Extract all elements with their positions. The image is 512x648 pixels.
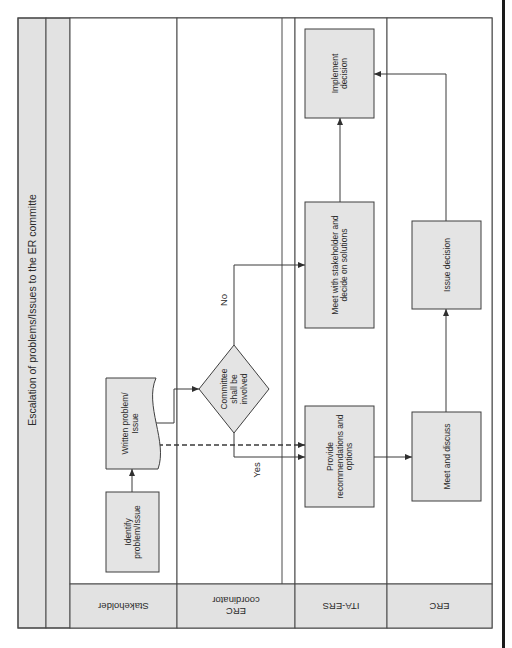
node-issue-decision: Issue decision bbox=[412, 221, 481, 309]
node-label: Implementdecision bbox=[330, 53, 350, 93]
edge-label-no: No bbox=[218, 294, 229, 306]
lane-body bbox=[177, 18, 295, 584]
node-identify: Identifyproblem/Issue bbox=[106, 492, 159, 572]
node-label: Issue decision bbox=[442, 238, 452, 292]
lane-erc-coordinator: ERCcoordinator bbox=[177, 18, 295, 628]
lane-erc: ERC bbox=[387, 18, 492, 628]
node-label: Committeeshall beinvolved bbox=[219, 368, 249, 409]
edge-label-yes: Yes bbox=[251, 462, 262, 478]
spacer-column bbox=[46, 18, 70, 628]
node-meet-discuss: Meet and discuss bbox=[412, 412, 481, 501]
node-provide: Providerecommendations andoptions bbox=[305, 406, 374, 507]
diagram-canvas: StakeholderERCcoordinatorITA-ERSERC NoYe… bbox=[0, 0, 512, 648]
node-written: Written problem/Issue bbox=[106, 378, 161, 469]
swimlane-diagram: StakeholderERCcoordinatorITA-ERSERC NoYe… bbox=[0, 0, 512, 648]
node-label: Meet with stakeholder anddecide on solut… bbox=[330, 215, 350, 314]
node-label: Meet and discuss bbox=[442, 423, 452, 489]
lane-label-stakeholder: Stakeholder bbox=[98, 601, 149, 612]
node-implement: Implementdecision bbox=[305, 29, 374, 118]
diagram-title: Escalation of problems/Issues to the ER … bbox=[26, 194, 38, 426]
lane-label-erc: ERC bbox=[429, 601, 449, 612]
lane-label-ita-ers: ITA-ERS bbox=[323, 601, 360, 612]
node-meet-stakeholder: Meet with stakeholder anddecide on solut… bbox=[305, 202, 374, 328]
page-edge-bar bbox=[502, 0, 505, 648]
